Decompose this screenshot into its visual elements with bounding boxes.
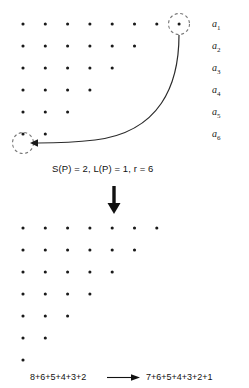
bottom-dot-r3-c2 <box>44 270 47 273</box>
top-dot-r4-c4 <box>88 88 91 91</box>
top-dot-r4-c2 <box>44 88 47 91</box>
bottom-dot-r2-c1 <box>21 248 24 251</box>
bottom-dot-r3-c4 <box>88 270 91 273</box>
top-dot-r6-c1 <box>21 132 24 135</box>
bottom-dot-r1-c2 <box>44 226 47 229</box>
bottom-dot-r3-c3 <box>66 270 69 273</box>
down-arrow <box>108 186 121 214</box>
top-dot-r1-c2 <box>44 22 47 25</box>
top-dot-r3-c3 <box>66 66 69 69</box>
bottom-dot-r5-c2 <box>44 314 47 317</box>
top-dot-r1-c5 <box>111 22 114 25</box>
top-dot-r5-c3 <box>66 110 69 113</box>
bottom-dot-r1-c4 <box>88 226 91 229</box>
top-dot-r3-c4 <box>88 66 91 69</box>
bottom-dot-r4-c2 <box>44 292 47 295</box>
figure-root: a1 a2 a3 a4 a5 a6 S(P) = 2, L(P) = 1, r … <box>0 0 249 388</box>
top-dot-r1-c4 <box>88 22 91 25</box>
bottom-dot-r5-c1 <box>21 314 24 317</box>
bottom-dot-r3-c5 <box>111 270 114 273</box>
top-dot-r2-c1 <box>21 44 24 47</box>
top-dot-r2-c3 <box>66 44 69 47</box>
top-dot-r2-c6 <box>133 44 136 47</box>
move-curved-arrow-head <box>30 139 38 147</box>
bottom-dot-r2-c5 <box>111 248 114 251</box>
bottom-dot-r4-c1 <box>21 292 24 295</box>
top-dot-r1-c3 <box>66 22 69 25</box>
young-diagram-figure <box>0 0 249 388</box>
bottom-dot-r3-c1 <box>21 270 24 273</box>
bottom-dot-r2-c6 <box>133 248 136 251</box>
bottom-grid-dots <box>21 226 158 361</box>
top-dot-r1-c8 <box>178 22 181 25</box>
bottom-dot-r1-c5 <box>111 226 114 229</box>
bottom-dot-r1-c1 <box>21 226 24 229</box>
bottom-dot-r6-c1 <box>21 336 24 339</box>
bottom-dot-r1-c7 <box>155 226 158 229</box>
top-dot-r1-c7 <box>155 22 158 25</box>
top-dot-r5-c2 <box>44 110 47 113</box>
top-dot-r6-c2 <box>44 132 47 135</box>
top-dot-r2-c2 <box>44 44 47 47</box>
top-dot-r4-c3 <box>66 88 69 91</box>
top-dot-r4-c1 <box>21 88 24 91</box>
bottom-dot-r6-c2 <box>44 336 47 339</box>
top-dot-r2-c5 <box>111 44 114 47</box>
bottom-dot-r2-c3 <box>66 248 69 251</box>
bottom-dot-r4-c4 <box>88 292 91 295</box>
bottom-dot-r1-c6 <box>133 226 136 229</box>
bottom-dot-r2-c4 <box>88 248 91 251</box>
top-dot-r5-c1 <box>21 110 24 113</box>
top-dot-r2-c4 <box>88 44 91 47</box>
move-curved-arrow-path <box>38 35 179 143</box>
top-dot-r3-c2 <box>44 66 47 69</box>
formula-arrow-icon <box>107 374 140 381</box>
bottom-dot-r4-c3 <box>66 292 69 295</box>
top-dot-r3-c1 <box>21 66 24 69</box>
top-grid-dots <box>21 22 180 135</box>
top-dot-r1-c6 <box>133 22 136 25</box>
bottom-dot-r1-c3 <box>66 226 69 229</box>
bottom-dot-r7-c1 <box>21 358 24 361</box>
top-dot-r3-c5 <box>111 66 114 69</box>
bottom-dot-r2-c2 <box>44 248 47 251</box>
top-dot-r1-c1 <box>21 22 24 25</box>
bottom-dot-r5-c3 <box>66 314 69 317</box>
